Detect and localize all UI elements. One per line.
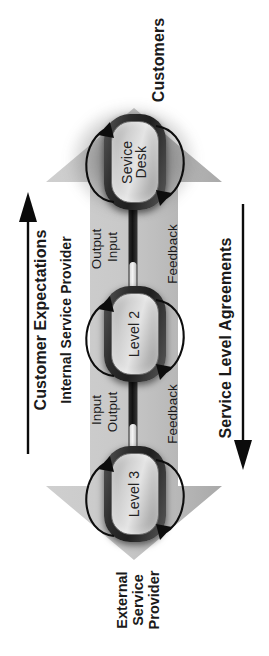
- node-level-3[interactable]: Level 3: [104, 446, 166, 542]
- node-service-desk-frame: Sevice Desk: [104, 114, 166, 210]
- feedback-label-lower: Feedback: [165, 384, 180, 443]
- external-line-1: External: [114, 571, 130, 628]
- customer-expectations-label: Customer Expectations: [32, 230, 50, 411]
- node-level-2-face: Level 2: [111, 293, 159, 375]
- external-line-2: Service: [130, 574, 146, 626]
- service-level-agreements-arrow: [233, 204, 253, 470]
- node-level-3-frame: Level 3: [104, 446, 166, 542]
- external-line-3: Provider: [146, 571, 162, 630]
- internal-service-provider-label: Internal Service Provider: [58, 236, 74, 403]
- customers-label: Customers: [150, 18, 168, 102]
- node-level-3-face: Level 3: [111, 453, 159, 535]
- flow-label-input-lower: Input: [89, 395, 104, 425]
- node-service-desk[interactable]: Sevice Desk: [104, 114, 166, 210]
- node-level-2-frame: Level 2: [104, 286, 166, 382]
- node-service-desk-label: Sevice Desk: [120, 140, 149, 183]
- external-service-provider-label: External Service Provider: [114, 571, 163, 630]
- flow-label-output-upper: Output: [89, 229, 104, 270]
- service-level-agreements-label: Service Level Agreements: [217, 237, 235, 438]
- flow-label-output-lower: Output: [105, 392, 120, 433]
- feedback-label-upper: Feedback: [165, 224, 180, 283]
- node-level-2-label: Level 2: [127, 311, 143, 358]
- node-service-desk-face: Sevice Desk: [111, 121, 159, 203]
- diagram-canvas: Sevice Desk Level 2 Level 3: [0, 0, 269, 656]
- node-level-2[interactable]: Level 2: [104, 286, 166, 382]
- node-level-3-label: Level 3: [127, 471, 143, 518]
- flow-label-input-upper: Input: [105, 232, 120, 262]
